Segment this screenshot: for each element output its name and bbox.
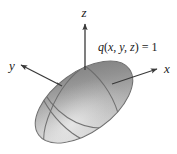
surface-equation-label: q(x, y, z)=1 bbox=[98, 40, 157, 54]
surface-label-close-paren: ) bbox=[135, 40, 139, 54]
y-axis-label: y bbox=[7, 58, 15, 73]
ellipsoid-shading-overlays bbox=[21, 45, 147, 154]
surface-label-arguments: x, y, z bbox=[107, 40, 135, 54]
surface-label-value: 1 bbox=[151, 40, 157, 54]
z-axis-label: z bbox=[80, 5, 86, 20]
surface-label-equals-sign: = bbox=[142, 40, 149, 54]
quadric-surface-figure: z y x q(x, y, z)=1 bbox=[0, 0, 177, 154]
figure-canvas: z y x q(x, y, z)=1 bbox=[0, 0, 177, 154]
ellipsoid-belly-highlight bbox=[21, 45, 147, 154]
x-axis-label: x bbox=[163, 61, 170, 76]
ellipsoid-surface bbox=[21, 45, 147, 154]
y-axis bbox=[21, 65, 62, 86]
